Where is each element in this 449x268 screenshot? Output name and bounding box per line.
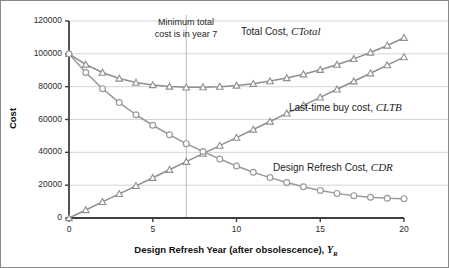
data-point-marker-design-refresh-cost-c-dr [167, 132, 173, 138]
data-point-marker-design-refresh-cost-c-dr [133, 112, 139, 118]
series-label-design-refresh-cost-text: Design Refresh Cost, [273, 162, 371, 173]
data-point-marker-total-cost-c-total [401, 34, 408, 40]
x-axis-label-symbol-subscript: R [333, 250, 338, 258]
x-tick-label: 5 [133, 224, 173, 234]
data-point-marker-design-refresh-cost-c-dr [150, 122, 156, 128]
data-point-marker-design-refresh-cost-c-dr [83, 70, 89, 76]
series-label-design-refresh-cost-subscript: DR [378, 161, 393, 173]
x-tick-label: 0 [49, 224, 89, 234]
annotation-line-2: cost is in year 7 [155, 29, 218, 39]
data-point-marker-design-refresh-cost-c-dr [334, 190, 340, 196]
y-tick-label: 20000 [1, 179, 62, 189]
data-point-marker-design-refresh-cost-c-dr [234, 163, 240, 169]
y-tick-label: 80000 [1, 81, 62, 91]
data-point-marker-design-refresh-cost-c-dr [100, 86, 106, 92]
data-point-marker-design-refresh-cost-c-dr [384, 195, 390, 201]
data-point-marker-design-refresh-cost-c-dr [217, 156, 223, 162]
data-point-marker-design-refresh-cost-c-dr [267, 175, 273, 181]
data-point-marker-design-refresh-cost-c-dr [351, 193, 357, 199]
x-tick-label: 15 [300, 224, 340, 234]
data-point-marker-design-refresh-cost-c-dr [401, 196, 407, 202]
series-label-total-cost-text: Total Cost, [241, 26, 291, 37]
series-label-design-refresh-cost: Design Refresh Cost, CDR [273, 161, 393, 173]
y-tick-label: 0 [1, 212, 62, 222]
data-point-marker-design-refresh-cost-c-dr [317, 188, 323, 194]
annotation-line-1: Minimum total [158, 17, 214, 27]
series-label-last-time-buy-cost-symbol: C [376, 101, 383, 113]
y-tick-label: 40000 [1, 146, 62, 156]
x-axis-label-text: Design Refresh Year (after obsolescence)… [134, 244, 324, 255]
data-point-marker-design-refresh-cost-c-dr [368, 194, 374, 200]
data-point-marker-design-refresh-cost-c-dr [250, 169, 256, 175]
x-tick-label: 10 [217, 224, 257, 234]
y-tick-label: 120000 [1, 15, 62, 25]
series-label-last-time-buy-cost-text: Last-time buy cost, [289, 102, 376, 113]
series-label-last-time-buy-cost-subscript: LTB [383, 101, 402, 113]
data-point-marker-last-time-buy-cost-c-ltb [401, 54, 408, 60]
data-point-marker-design-refresh-cost-c-dr [66, 51, 72, 57]
axis-ticks [65, 21, 404, 222]
series-label-last-time-buy-cost: Last-time buy cost, CLTB [289, 101, 402, 113]
series-label-total-cost: Total Cost, CTotal [241, 25, 321, 37]
data-point-marker-design-refresh-cost-c-dr [183, 141, 189, 147]
x-axis-label: Design Refresh Year (after obsolescence)… [61, 244, 411, 258]
minimum-cost-annotation: Minimum total cost is in year 7 [134, 17, 238, 40]
data-point-marker-design-refresh-cost-c-dr [301, 184, 307, 190]
chart-figure: Cost Design Refresh Year (after obsolesc… [0, 0, 449, 268]
data-point-marker-design-refresh-cost-c-dr [116, 100, 122, 106]
series-label-total-cost-subscript: Total [298, 25, 320, 37]
x-tick-label: 20 [384, 224, 424, 234]
y-tick-label: 100000 [1, 48, 62, 58]
data-point-marker-design-refresh-cost-c-dr [284, 180, 290, 186]
series-markers [66, 34, 408, 220]
data-point-marker-design-refresh-cost-c-dr [200, 149, 206, 155]
data-point-marker-total-cost-c-total [82, 61, 89, 67]
y-tick-label: 60000 [1, 114, 62, 124]
